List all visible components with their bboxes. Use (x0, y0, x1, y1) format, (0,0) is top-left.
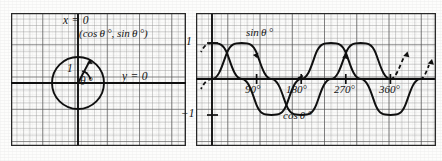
x-tick-label-270: 270° (334, 84, 355, 95)
sine-cosine-svg (196, 13, 436, 146)
sine-cosine-panel (196, 13, 436, 146)
x-axis-equation-label: x = 0 (63, 15, 89, 27)
figure-root: x = 0 (cos θ °, sin θ °) y = 0 1 θ ° (0, 0, 442, 161)
sine-curve-label: sin θ ° (246, 27, 273, 38)
point-coordinates-label: (cos θ °, sin θ °) (79, 28, 148, 39)
x-tick-label-180: 180° (286, 84, 307, 95)
x-tick-label-360: 360° (379, 84, 400, 95)
cosine-curve-label: cos θ ° (283, 110, 312, 121)
y-axis-equation-label: y = 0 (122, 71, 148, 83)
y-min-label: −1 (181, 108, 195, 120)
theta-angle-label: θ ° (80, 76, 93, 88)
y-max-label: 1 (186, 36, 192, 48)
x-tick-label-90: 90° (245, 84, 260, 95)
radius-length-label: 1 (67, 63, 73, 75)
